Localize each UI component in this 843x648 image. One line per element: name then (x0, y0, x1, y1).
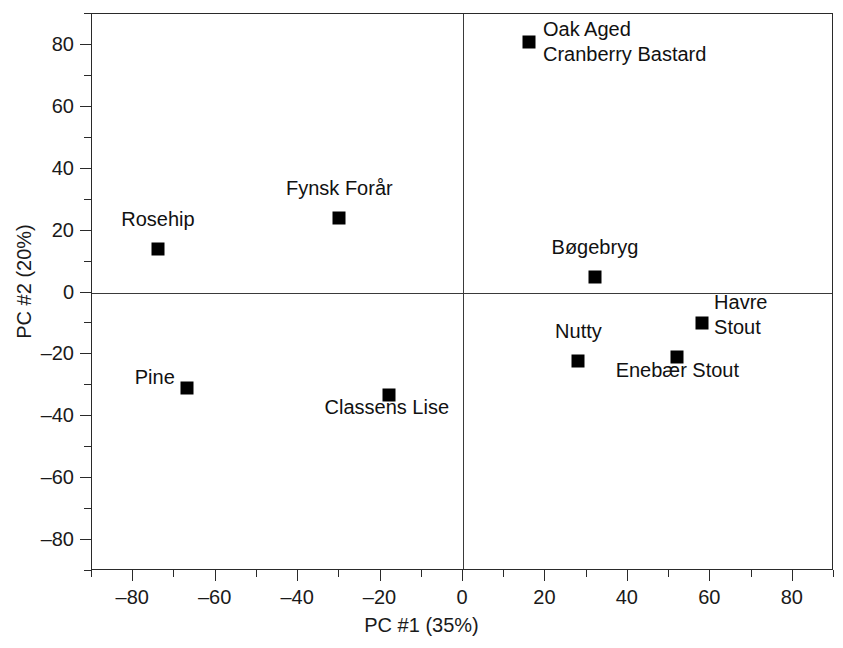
x-tick-label: 0 (456, 586, 467, 608)
y-tick-major (80, 44, 91, 45)
x-tick-minor (91, 570, 92, 577)
x-tick-label: 60 (698, 586, 720, 608)
data-point-label: Classens Lise (325, 395, 450, 420)
data-point-label: Oak Aged Cranberry Bastard (543, 17, 706, 67)
y-tick-major (80, 106, 91, 107)
data-point-label: Enebær Stout (616, 358, 739, 383)
y-tick-minor (84, 570, 91, 571)
y-tick-minor (84, 446, 91, 447)
y-tick-minor (84, 75, 91, 76)
data-point-label: Nutty (555, 319, 602, 344)
y-tick-label: –20 (0, 342, 74, 364)
pca-scatter-figure: RosehipFynsk ForårOak Aged Cranberry Bas… (0, 0, 843, 648)
data-point-label: Bøgebryg (552, 235, 639, 260)
data-point-marker[interactable] (572, 354, 585, 367)
y-tick-label: 0 (0, 281, 74, 303)
y-tick-minor (84, 508, 91, 509)
y-tick-major (80, 292, 91, 293)
y-tick-major (80, 415, 91, 416)
y-tick-minor (84, 137, 91, 138)
x-tick-minor (256, 570, 257, 577)
x-tick-minor (421, 570, 422, 577)
x-tick-label: 40 (616, 586, 638, 608)
data-point-marker[interactable] (522, 35, 535, 48)
x-tick-major (297, 570, 298, 581)
y-tick-label: –80 (0, 528, 74, 550)
data-point-label: Rosehip (121, 207, 194, 232)
y-tick-minor (84, 199, 91, 200)
y-tick-major (80, 168, 91, 169)
y-tick-major (80, 539, 91, 540)
y-tick-major (80, 477, 91, 478)
x-tick-label: –40 (280, 586, 313, 608)
y-tick-minor (84, 261, 91, 262)
x-tick-minor (338, 570, 339, 577)
y-tick-label: –60 (0, 466, 74, 488)
zero-line-vertical (463, 14, 464, 569)
data-point-label: Pine (135, 365, 175, 390)
y-tick-minor (84, 322, 91, 323)
data-point-marker[interactable] (151, 243, 164, 256)
plot-area: RosehipFynsk ForårOak Aged Cranberry Bas… (91, 13, 833, 570)
x-tick-major (462, 570, 463, 581)
x-tick-major (380, 570, 381, 581)
x-tick-label: –80 (116, 586, 149, 608)
x-tick-minor (833, 570, 834, 577)
x-axis-title: PC #1 (35%) (0, 614, 843, 637)
x-tick-minor (173, 570, 174, 577)
y-tick-label: 40 (0, 157, 74, 179)
data-point-label: Fynsk Forår (286, 176, 393, 201)
x-tick-major (627, 570, 628, 581)
data-point-marker[interactable] (696, 317, 709, 330)
x-tick-label: 80 (781, 586, 803, 608)
data-point-marker[interactable] (588, 271, 601, 284)
y-tick-major (80, 353, 91, 354)
y-tick-minor (84, 13, 91, 14)
y-tick-label: 60 (0, 95, 74, 117)
x-tick-major (544, 570, 545, 581)
y-tick-major (80, 230, 91, 231)
x-tick-minor (668, 570, 669, 577)
x-tick-major (215, 570, 216, 581)
x-tick-major (132, 570, 133, 581)
x-tick-minor (751, 570, 752, 577)
data-point-label: Havre Stout (714, 290, 767, 340)
y-axis-title: PC #2 (20%) (13, 172, 36, 392)
x-tick-minor (503, 570, 504, 577)
y-tick-label: 20 (0, 219, 74, 241)
y-tick-label: –40 (0, 404, 74, 426)
y-tick-label: 80 (0, 33, 74, 55)
x-tick-label: –20 (363, 586, 396, 608)
x-tick-label: 20 (533, 586, 555, 608)
data-point-marker[interactable] (333, 212, 346, 225)
data-point-marker[interactable] (180, 382, 193, 395)
x-tick-minor (586, 570, 587, 577)
y-tick-minor (84, 384, 91, 385)
x-tick-major (792, 570, 793, 581)
x-tick-label: –60 (198, 586, 231, 608)
x-tick-major (709, 570, 710, 581)
